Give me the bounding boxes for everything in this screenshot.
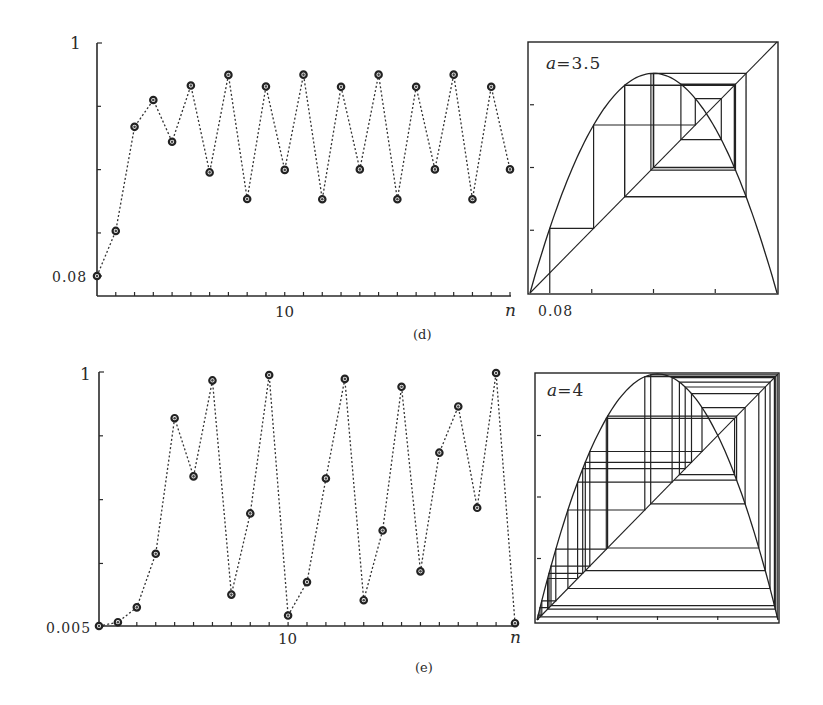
time-series-plot-d: 1 0.08 10 n (d) bbox=[52, 33, 516, 342]
time-series-plot-e: 1 0.005 10 n (e) bbox=[46, 364, 521, 675]
parameter-annotation: a=3.5 bbox=[546, 53, 601, 73]
x-axis-label: n bbox=[505, 300, 516, 320]
axes bbox=[99, 372, 516, 626]
y-bottom-label: 0.08 bbox=[52, 269, 87, 285]
cobweb-plot-e: a=4 bbox=[535, 373, 779, 623]
series-line bbox=[97, 75, 510, 276]
data-points bbox=[94, 71, 513, 279]
cobweb-plot-d: a=3.5 0.08 bbox=[528, 42, 778, 319]
y-top-label: 1 bbox=[70, 33, 81, 53]
series-line bbox=[99, 373, 515, 626]
panel-caption: (d) bbox=[413, 327, 431, 342]
series-path bbox=[99, 373, 515, 626]
x-tick-label-10: 10 bbox=[278, 630, 297, 648]
series-path bbox=[97, 75, 510, 276]
x-axis-label: n bbox=[510, 627, 521, 647]
parameter-annotation: a=4 bbox=[547, 380, 584, 400]
x-tick-label-x0: 0.08 bbox=[538, 303, 573, 319]
x-tick-label-10: 10 bbox=[275, 303, 294, 321]
y-bottom-label: 0.005 bbox=[46, 620, 91, 636]
figure: 1 0.08 10 n (d) a=3.5 0.08 1 0.005 10 n … bbox=[0, 0, 823, 705]
data-points bbox=[96, 370, 518, 629]
panel-caption: (e) bbox=[415, 660, 433, 675]
y-top-label: 1 bbox=[80, 364, 91, 384]
